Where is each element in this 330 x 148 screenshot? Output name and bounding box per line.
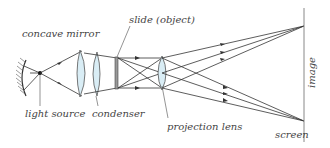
label-slide: slide (object): [129, 14, 195, 25]
label-screen: screen: [275, 129, 309, 140]
label-concave-mirror: concave mirror: [22, 28, 101, 39]
mirror-rays: [24, 66, 40, 90]
projector-diagram: concave mirror light source condenser sl…: [0, 0, 330, 148]
label-light-source: light source: [25, 108, 85, 119]
condenser-rays: [84, 53, 117, 94]
slide-rays: [118, 56, 162, 90]
slide: [115, 57, 118, 89]
label-condenser: condenser: [92, 108, 146, 119]
label-projection-lens: projection lens: [167, 121, 242, 132]
condenser-lenses: [77, 50, 100, 97]
label-leaders: [40, 26, 168, 118]
projection-rays: [162, 26, 304, 121]
label-image: image: [306, 57, 317, 88]
concave-mirror: [16, 58, 26, 96]
source-rays: [40, 51, 82, 96]
